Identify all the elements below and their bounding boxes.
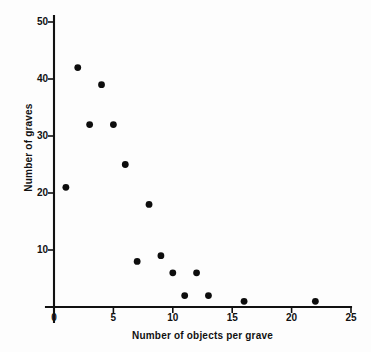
data-point [122,161,129,168]
y-tick-label-text: 50 [22,17,48,27]
x-tick-label: 25 [336,313,366,323]
data-point [205,292,212,299]
data-point [62,184,69,191]
data-point [74,64,81,71]
data-point-group [62,64,318,304]
scatter-plot-figure: 1020304050 0510152025 Number of graves N… [0,0,371,352]
y-tick-label-text: 10 [22,245,48,255]
y-tick-label: 50 [18,17,48,27]
data-point [146,201,153,208]
data-point [169,269,176,276]
x-tick-label: 0 [39,313,69,323]
y-tick-label: 10 [18,245,48,255]
data-point [86,121,93,128]
data-point [98,81,105,88]
data-point [312,298,319,305]
x-tick-label: 20 [277,313,307,323]
data-point [181,292,188,299]
data-point [110,121,117,128]
data-point [134,258,141,265]
axes-group [46,16,351,322]
y-axis-title: Number of graves [23,68,34,228]
x-axis-title: Number of objects per grave [54,330,351,341]
x-tick-label: 15 [217,313,247,323]
x-tick-label: 10 [158,313,188,323]
x-tick-label: 5 [98,313,128,323]
data-point [193,269,200,276]
data-point [158,252,165,259]
plot-canvas [0,0,371,352]
data-point [241,298,248,305]
